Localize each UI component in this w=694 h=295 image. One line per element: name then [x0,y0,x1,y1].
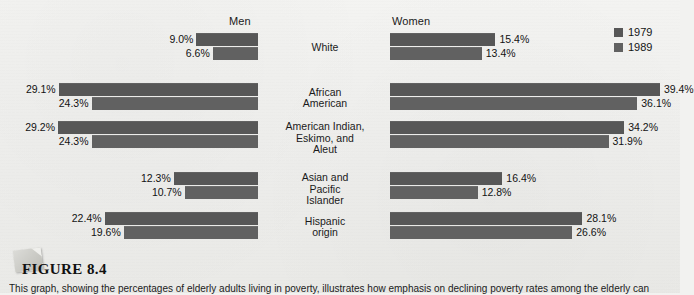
men-panel: 9.0%6.6% [0,33,258,67]
bar-value-label: 36.1% [641,98,671,109]
bar-group-women-1989: 36.1% [390,97,671,110]
category-label: AfricanAmerican [262,87,388,110]
bar-women-1979[interactable] [390,212,582,225]
bar-value-label: 24.3% [59,136,89,147]
figure-title: FIGURE 8.4 [22,261,107,278]
bar-men-1989[interactable] [92,97,258,110]
category-label: White [262,42,388,54]
bar-value-label: 24.3% [59,98,89,109]
bar-group-women-1989: 12.8% [390,186,511,199]
column-header-women: Women [392,15,430,27]
men-panel: 29.2%24.3% [0,121,258,155]
women-panel: 28.1%26.6% [390,212,680,246]
bar-group-men-1989: 24.3% [59,97,258,110]
men-panel: 22.4%19.6% [0,212,258,246]
caption-area: FIGURE 8.4 This graph, showing the perce… [0,248,680,293]
bar-value-label: 28.1% [586,213,616,224]
chart-row: American Indian,Eskimo, andAleut29.2%24.… [0,121,680,155]
bar-value-label: 9.0% [169,34,193,45]
bar-group-women-1979: 28.1% [390,212,616,225]
bar-value-label: 10.7% [152,187,182,198]
bar-value-label: 16.4% [506,173,536,184]
bar-men-1979[interactable] [58,121,258,134]
category-label: American Indian,Eskimo, andAleut [262,121,388,156]
column-header-men: Men [229,15,251,27]
men-panel: 29.1%24.3% [0,83,258,117]
women-panel: 15.4%13.4% [390,33,680,67]
category-label: Hispanicorigin [262,216,388,239]
men-panel: 12.3%10.7% [0,172,258,206]
bar-value-label: 6.6% [186,48,210,59]
bar-women-1979[interactable] [390,83,660,96]
bar-group-women-1979: 34.2% [390,121,658,134]
bar-women-1979[interactable] [390,121,624,134]
bar-group-women-1979: 16.4% [390,172,536,185]
bar-value-label: 13.4% [486,48,516,59]
bar-value-label: 22.4% [72,213,102,224]
bar-women-1989[interactable] [390,47,482,60]
bar-group-men-1989: 6.6% [186,47,258,60]
bar-value-label: 39.4% [664,84,694,95]
bar-men-1979[interactable] [105,212,258,225]
bar-group-men-1979: 12.3% [141,172,258,185]
bar-group-men-1989: 24.3% [59,135,258,148]
bar-men-1979[interactable] [59,83,258,96]
bar-men-1989[interactable] [92,135,258,148]
bar-men-1989[interactable] [124,226,258,239]
chart-row: Asian andPacificIslander12.3%10.7%16.4%1… [0,172,680,206]
bar-value-label: 34.2% [628,122,658,133]
category-label: Asian andPacificIslander [262,172,388,207]
bar-value-label: 26.6% [576,227,606,238]
bar-value-label: 19.6% [91,227,121,238]
bar-value-label: 29.2% [25,122,55,133]
bar-group-men-1989: 10.7% [152,186,258,199]
bar-men-1989[interactable] [185,186,258,199]
bar-value-label: 15.4% [499,34,529,45]
bar-men-1979[interactable] [174,172,258,185]
bar-group-men-1979: 22.4% [72,212,258,225]
figure-caption: This graph, showing the percentages of e… [9,283,673,295]
bar-group-women-1989: 26.6% [390,226,606,239]
bar-value-label: 12.8% [482,187,512,198]
bar-group-men-1989: 19.6% [91,226,258,239]
bar-value-label: 12.3% [141,173,171,184]
bar-men-1989[interactable] [213,47,258,60]
bar-value-label: 31.9% [613,136,643,147]
bar-group-women-1989: 13.4% [390,47,516,60]
bar-women-1989[interactable] [390,226,572,239]
chart-row: White9.0%6.6%15.4%13.4% [0,33,680,67]
bar-women-1989[interactable] [390,135,609,148]
women-panel: 16.4%12.8% [390,172,680,206]
women-panel: 34.2%31.9% [390,121,680,155]
women-panel: 39.4%36.1% [390,83,680,117]
bar-group-men-1979: 9.0% [169,33,258,46]
poverty-bar-chart: Men Women 19791989 White9.0%6.6%15.4%13.… [0,0,680,248]
bar-group-men-1979: 29.2% [25,121,258,134]
bar-women-1989[interactable] [390,97,637,110]
bar-women-1979[interactable] [390,172,502,185]
bar-men-1979[interactable] [196,33,258,46]
chart-row: AfricanAmerican29.1%24.3%39.4%36.1% [0,83,680,117]
bar-group-women-1979: 39.4% [390,83,694,96]
bar-value-label: 29.1% [26,84,56,95]
bar-group-women-1989: 31.9% [390,135,642,148]
chart-row: Hispanicorigin22.4%19.6%28.1%26.6% [0,212,680,246]
bar-group-women-1979: 15.4% [390,33,529,46]
bar-women-1989[interactable] [390,186,478,199]
bar-group-men-1979: 29.1% [26,83,258,96]
bar-women-1979[interactable] [390,33,495,46]
